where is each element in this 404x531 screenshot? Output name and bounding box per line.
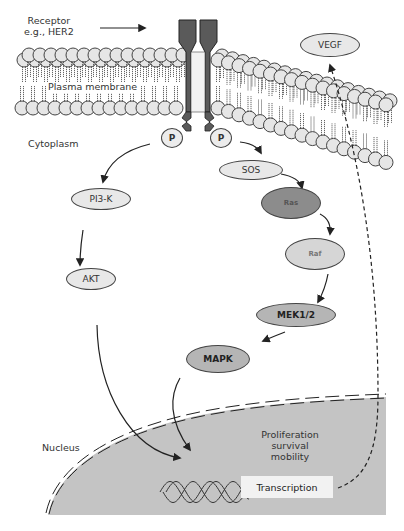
pi3k-node: PI3-K: [71, 188, 131, 210]
nucleus-label: Nucleus: [42, 443, 80, 454]
receptor-label: Receptor e.g., HER2: [24, 16, 74, 38]
vegf-node: VEGF: [300, 33, 360, 57]
arrow-sos-to-ras: [281, 174, 302, 188]
plasma-membrane-label: Plasma membrane: [46, 82, 139, 93]
phosphate-left-node: P: [161, 128, 183, 148]
receptor-label-line2: e.g., HER2: [24, 27, 74, 38]
arrow-p-to-pi3k: [103, 144, 150, 182]
akt-node: AKT: [66, 268, 116, 290]
mek-node: MEK1/2: [256, 303, 336, 327]
arrow-raf-to-mek: [318, 274, 328, 302]
ras-node: Ras: [261, 187, 321, 219]
cytoplasm-label: Cytoplasm: [28, 139, 79, 150]
arrow-pi3k-to-akt: [80, 230, 83, 265]
transcription-box: Transcription: [241, 476, 333, 498]
arrow-p-to-sos: [240, 142, 261, 153]
raf-node: Raf: [285, 238, 345, 270]
plasma-membrane-right: [211, 49, 397, 169]
arrow-mek-to-mapk: [263, 332, 285, 341]
mapk-node: MAPK: [186, 345, 250, 373]
receptor-her2: [179, 20, 217, 131]
phosphate-right-node: P: [210, 128, 232, 148]
sos-node: SOS: [219, 160, 283, 180]
nucleus: [46, 394, 386, 515]
outcome-mobility: mobility: [258, 452, 322, 463]
outcome-label: Proliferation survival mobility: [258, 430, 322, 463]
arrow-ras-to-raf: [320, 214, 330, 234]
